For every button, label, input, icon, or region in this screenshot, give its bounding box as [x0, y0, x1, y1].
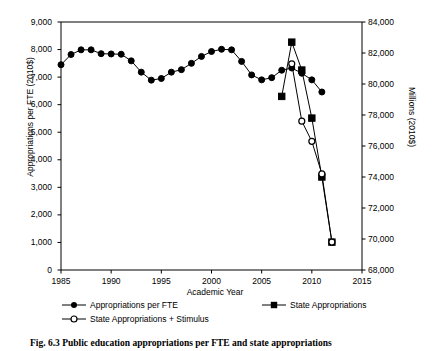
open-circle-icon	[62, 314, 86, 324]
y-tick-right: 68,000	[368, 265, 414, 275]
legend-entry[interactable]: Appropriations per FTE	[62, 300, 178, 310]
y-tick-right: 84,000	[368, 17, 414, 27]
y-tick-right: 82,000	[368, 48, 414, 58]
x-axis-title: Academic Year	[160, 287, 270, 297]
y-tick-right: 72,000	[368, 203, 414, 213]
y-tick-left: 9,000	[8, 17, 52, 27]
y-tick-left: 1,000	[8, 237, 52, 247]
y-tick-right: 70,000	[368, 234, 414, 244]
y-tick-right: 78,000	[368, 110, 414, 120]
legend-label: State Appropriations + Stimulus	[90, 314, 209, 324]
y-tick-left: 3,000	[8, 182, 52, 192]
filled-circle-icon	[62, 300, 86, 310]
x-tick: 2000	[192, 276, 232, 286]
figure-caption: Fig. 6.3 Public education appropriations…	[30, 338, 430, 348]
legend-entry[interactable]: State Appropriations	[262, 300, 367, 310]
figure-container: Appropriations per FTE (2010$) Millions …	[0, 0, 432, 351]
x-tick: 1995	[141, 276, 181, 286]
x-tick: 1990	[91, 276, 131, 286]
y-tick-left: 4,000	[8, 154, 52, 164]
legend-entry[interactable]: State Appropriations + Stimulus	[62, 314, 209, 324]
y-tick-left: 7,000	[8, 72, 52, 82]
legend-label: Appropriations per FTE	[90, 300, 178, 310]
y-tick-left: 5,000	[8, 127, 52, 137]
x-tick: 2005	[242, 276, 282, 286]
y-tick-left: 8,000	[8, 44, 52, 54]
y-tick-left: 2,000	[8, 209, 52, 219]
legend-label: State Appropriations	[290, 300, 367, 310]
y-tick-right: 74,000	[368, 172, 414, 182]
y-tick-right: 76,000	[368, 141, 414, 151]
filled-square-icon	[262, 300, 286, 310]
y-tick-left: 0	[8, 265, 52, 275]
y-tick-right: 80,000	[368, 79, 414, 89]
x-tick: 2015	[342, 276, 382, 286]
series-markers-0	[58, 46, 325, 95]
x-tick: 1985	[41, 276, 81, 286]
x-tick: 2010	[292, 276, 332, 286]
y-tick-left: 6,000	[8, 99, 52, 109]
